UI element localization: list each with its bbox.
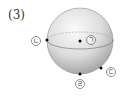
label-rieul: ㄹ — [77, 80, 83, 88]
dot-nieun — [46, 39, 49, 42]
dot-giyeok — [79, 40, 82, 43]
dot-rieul — [79, 73, 82, 76]
sphere-diagram: ㄱ ㄴ ㄷ ㄹ — [0, 0, 129, 101]
label-giyeok: ㄱ — [88, 36, 94, 44]
dot-digeut — [100, 67, 103, 70]
point-rieul: ㄹ — [76, 73, 85, 89]
label-digeut: ㄷ — [108, 68, 114, 76]
label-nieun: ㄴ — [33, 37, 39, 45]
point-digeut: ㄷ — [100, 67, 116, 77]
point-nieun: ㄴ — [32, 37, 49, 46]
